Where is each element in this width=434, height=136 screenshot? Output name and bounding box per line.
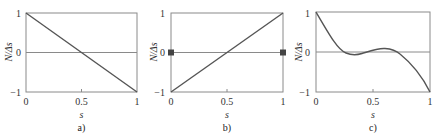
y-tick-minus1: −1	[299, 87, 310, 98]
y-tick-0: 0	[160, 47, 165, 58]
figure: 1 0 −1 0 0.5 1 s N/Δs a) 1 0 −1 0 0.5 1 …	[0, 0, 434, 136]
x-tick-0: 0	[314, 96, 319, 107]
x-axis-label: s	[225, 109, 229, 120]
y-axis-label: N/Δs	[293, 42, 304, 62]
y-axis-label: N/Δs	[3, 42, 14, 62]
x-tick-0.5: 0.5	[367, 96, 380, 107]
panel-caption: b)	[223, 122, 231, 134]
panel-c: 1 0 −1 0 0.5 1 s N/Δs c)	[293, 8, 433, 134]
x-tick-1: 1	[135, 96, 140, 107]
node-marker	[280, 50, 286, 56]
panel-a: 1 0 −1 0 0.5 1 s N/Δs a)	[3, 8, 140, 134]
y-tick-1: 1	[305, 8, 310, 19]
y-tick-minus1: −1	[10, 87, 21, 98]
node-marker	[168, 50, 174, 56]
x-axis-label: s	[80, 109, 84, 120]
panel-caption: c)	[369, 122, 377, 134]
x-tick-1: 1	[281, 96, 286, 107]
y-tick-0: 0	[16, 47, 21, 58]
x-tick-0.5: 0.5	[75, 96, 88, 107]
y-tick-1: 1	[160, 8, 165, 19]
panel-b: 1 0 −1 0 0.5 1 s N/Δs b)	[148, 8, 286, 134]
x-tick-0.5: 0.5	[221, 96, 234, 107]
y-tick-0: 0	[305, 47, 310, 58]
panel-caption: a)	[78, 122, 86, 134]
x-tick-0: 0	[24, 96, 29, 107]
y-axis-label: N/Δs	[148, 42, 159, 62]
y-tick-minus1: −1	[154, 87, 165, 98]
y-tick-1: 1	[16, 8, 21, 19]
x-tick-0: 0	[169, 96, 174, 107]
x-tick-1: 1	[428, 96, 433, 107]
x-axis-label: s	[371, 109, 375, 120]
